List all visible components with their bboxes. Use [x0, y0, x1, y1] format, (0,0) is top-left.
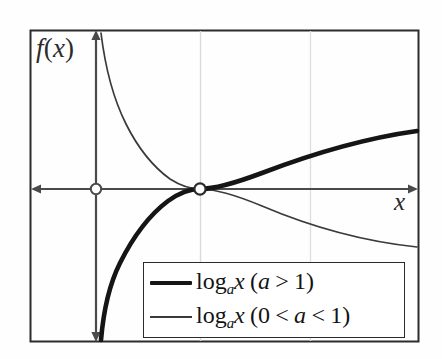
y-axis-label: f(x)	[36, 33, 74, 64]
legend-bold-relation: >	[275, 268, 289, 294]
legend-thin-base: a	[227, 315, 234, 331]
legend-bold-close-paren: )	[306, 268, 314, 294]
legend-thin-lower-bound: 0	[258, 302, 270, 328]
y-axis-label-open-paren: (	[44, 33, 53, 63]
legend-thin-upper-bound: 1	[330, 302, 342, 328]
origin-point-marker	[91, 184, 101, 194]
legend-thin-relation-1: <	[275, 302, 289, 328]
legend-label-bold: logax(a>1)	[196, 269, 314, 297]
common-point-marker	[194, 183, 205, 194]
y-axis-label-f: f	[36, 33, 44, 63]
legend-bold-cond-var: a	[258, 268, 270, 294]
legend-swatch-bold-line	[150, 281, 192, 286]
legend-bold-arg: x	[234, 268, 245, 294]
y-axis-label-var: x	[53, 33, 65, 63]
legend-label-thin: logax(0<a<1)	[196, 303, 350, 331]
legend-thin-close-paren: )	[342, 302, 350, 328]
legend-bold-open-paren: (	[250, 268, 258, 294]
logarithm-function-figure: f(x) x logax(a>1) logax(0<a<1)	[0, 0, 442, 359]
legend-bold-cond-value: 1	[294, 268, 306, 294]
legend-swatch-thin-line	[150, 316, 192, 318]
legend-entry-thin: logax(0<a<1)	[150, 300, 404, 334]
legend-bold-base: a	[227, 281, 234, 297]
legend-bold-log: log	[196, 268, 227, 294]
legend: logax(a>1) logax(0<a<1)	[143, 262, 405, 338]
legend-thin-relation-2: <	[311, 302, 325, 328]
legend-entry-bold: logax(a>1)	[150, 266, 404, 300]
legend-thin-open-paren: (	[250, 302, 258, 328]
legend-thin-log: log	[196, 302, 227, 328]
x-axis-label: x	[394, 188, 405, 216]
y-axis-label-close-paren: )	[65, 33, 74, 63]
legend-thin-cond-var: a	[294, 302, 306, 328]
legend-thin-arg: x	[234, 302, 245, 328]
